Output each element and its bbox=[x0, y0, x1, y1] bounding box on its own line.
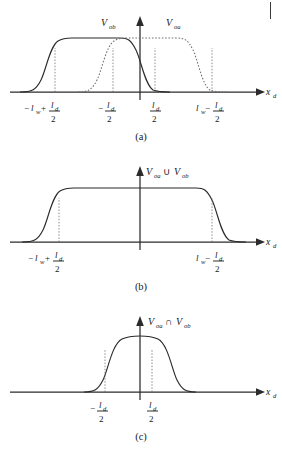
tick-3-num: l bbox=[152, 100, 155, 110]
tick-label-2: l w − l d 2 bbox=[196, 250, 224, 274]
tick-1-neg: − bbox=[24, 103, 29, 113]
tick-label-2: − l d 2 bbox=[98, 100, 116, 124]
tick-1-neg: − bbox=[28, 253, 33, 263]
tick-4-lead: l bbox=[196, 103, 199, 113]
panel-a-plot: V ob V oa x d − l w + l d 2 bbox=[0, 0, 282, 150]
y-axis-arrowhead bbox=[136, 166, 144, 176]
label-union-sub-1: oa bbox=[154, 172, 161, 179]
x-axis-label: x d bbox=[265, 87, 277, 99]
label-v-oa-sub: oa bbox=[174, 23, 181, 30]
panel-b-plot: V oa ∪ V ob x d − l w + l d 2 bbox=[0, 150, 282, 300]
panel-c: V oa ∩ V ob x d − l d 2 l d bbox=[0, 300, 282, 460]
label-v-oa: V oa bbox=[166, 17, 181, 30]
x-axis-arrowhead bbox=[256, 238, 265, 246]
x-axis-label-symbol: x bbox=[265, 387, 271, 397]
label-v-ob: V ob bbox=[101, 17, 116, 30]
label-union-operator: ∪ bbox=[163, 166, 170, 177]
x-axis-arrowhead bbox=[256, 388, 265, 396]
tick-label-3: l d 2 bbox=[150, 100, 161, 124]
tick-1-lead: l bbox=[35, 253, 38, 263]
tick-label-2: l d 2 bbox=[147, 400, 158, 424]
tick-1-num: l bbox=[51, 100, 54, 110]
tick-2-neg: − bbox=[98, 103, 103, 113]
tick-1-op: + bbox=[45, 253, 50, 263]
tick-1-num: l bbox=[55, 250, 58, 260]
label-intersection-operator: ∩ bbox=[165, 316, 172, 327]
tick-3-den: 2 bbox=[152, 114, 157, 124]
tick-4-den: 2 bbox=[215, 114, 220, 124]
label-union-sub-2: ob bbox=[182, 172, 189, 179]
label-intersection-sub-1: oa bbox=[156, 322, 163, 329]
tick-1-den: 2 bbox=[55, 264, 60, 274]
tick-2-den: 2 bbox=[215, 264, 220, 274]
label-v-oa-symbol: V bbox=[166, 17, 174, 28]
tick-4-op: − bbox=[205, 103, 210, 113]
x-axis-label-symbol: x bbox=[265, 237, 271, 247]
x-axis-label: x d bbox=[265, 237, 277, 249]
tick-2-lead: l bbox=[196, 253, 199, 263]
panel-b-caption: (b) bbox=[0, 281, 282, 292]
tick-1-num: l bbox=[99, 400, 102, 410]
label-v-ob-sub: ob bbox=[109, 23, 116, 30]
y-axis-arrowhead bbox=[136, 316, 144, 326]
label-intersection-symbol-2: V bbox=[176, 316, 184, 327]
tick-label-1: − l w + l d 2 bbox=[24, 100, 60, 124]
label-union-symbol-1: V bbox=[146, 166, 154, 177]
panel-a: V ob V oa x d − l w + l d 2 bbox=[0, 0, 282, 150]
tick-4-num: l bbox=[215, 100, 218, 110]
tick-1-lead: l bbox=[31, 103, 34, 113]
x-axis-arrowhead bbox=[256, 88, 265, 96]
tick-2-num: l bbox=[107, 100, 110, 110]
label-union-symbol-2: V bbox=[174, 166, 182, 177]
tick-2-num: l bbox=[149, 400, 152, 410]
x-axis-label: x d bbox=[265, 387, 277, 399]
x-axis-label-sub: d bbox=[273, 392, 277, 399]
curve-v-oa bbox=[78, 38, 228, 92]
label-union: V oa ∪ V ob bbox=[146, 166, 189, 179]
label-intersection-symbol-1: V bbox=[148, 316, 156, 327]
panel-b: V oa ∪ V ob x d − l w + l d 2 bbox=[0, 150, 282, 300]
y-axis-arrowhead bbox=[136, 16, 144, 26]
tick-2-num: l bbox=[215, 250, 218, 260]
label-v-ob-symbol: V bbox=[101, 17, 109, 28]
x-axis-label-symbol: x bbox=[265, 87, 271, 97]
tick-2-den: 2 bbox=[107, 114, 112, 124]
curve-union bbox=[22, 188, 246, 242]
x-axis-label-sub: d bbox=[273, 242, 277, 249]
label-intersection-sub-2: ob bbox=[184, 322, 191, 329]
tick-2-op: − bbox=[205, 253, 210, 263]
x-axis-label-sub: d bbox=[273, 92, 277, 99]
panel-a-caption: (a) bbox=[0, 131, 282, 142]
panel-c-caption: (c) bbox=[0, 431, 282, 442]
tick-label-4: l w − l d 2 bbox=[196, 100, 224, 124]
tick-1-den: 2 bbox=[51, 114, 56, 124]
tick-1-den: 2 bbox=[99, 414, 104, 424]
tick-label-1: − l d 2 bbox=[90, 400, 108, 424]
figure-overlap-volumes: V ob V oa x d − l w + l d 2 bbox=[0, 0, 282, 460]
tick-1-op: + bbox=[41, 103, 46, 113]
tick-1-neg: − bbox=[90, 403, 95, 413]
tick-2-den: 2 bbox=[149, 414, 154, 424]
label-intersection: V oa ∩ V ob bbox=[148, 316, 191, 329]
tick-label-1: − l w + l d 2 bbox=[28, 250, 64, 274]
